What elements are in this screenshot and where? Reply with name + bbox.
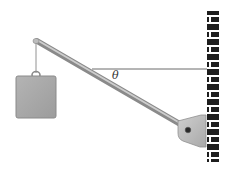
hinge-bracket	[178, 115, 206, 147]
angle-label: θ	[112, 69, 119, 82]
weight-block	[16, 72, 56, 119]
hinge-pin-icon	[185, 127, 191, 133]
statics-diagram: θ	[0, 0, 229, 179]
brick-wall	[207, 10, 219, 163]
